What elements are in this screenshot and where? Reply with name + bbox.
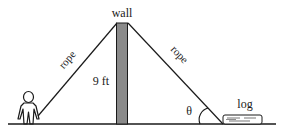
person-figure (18, 92, 39, 125)
right-rope-label: rope (169, 43, 191, 66)
angle-arc (199, 108, 208, 124)
right-rope (128, 23, 223, 124)
angle-label: θ (186, 104, 192, 118)
log-label: log (237, 97, 252, 111)
wall-label: wall (112, 6, 133, 20)
log (223, 115, 262, 124)
height-label: 9 ft (93, 74, 110, 88)
left-rope (38, 23, 117, 116)
left-rope-label: rope (56, 48, 78, 71)
rope-wall-diagram: wall 9 ft rope rope θ log (0, 0, 284, 137)
wall (117, 23, 128, 124)
